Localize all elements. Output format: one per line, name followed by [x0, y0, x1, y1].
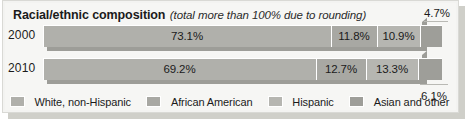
- legend-swatch-icon: [146, 96, 161, 107]
- bar-segment-asian-other-2010[interactable]: [418, 58, 442, 80]
- page-title: Racial/ethnic composition: [13, 8, 165, 22]
- legend-item-african-american[interactable]: African American: [146, 92, 252, 110]
- legend-swatch-icon: [10, 96, 25, 107]
- bar-segment-african-american-2010[interactable]: [316, 58, 366, 80]
- bar-segment-hispanic-2000[interactable]: [377, 25, 420, 47]
- racial-ethnic-composition-chart: Racial/ethnic composition (total more th…: [0, 0, 467, 120]
- chart-title-note: (total more than 100% due to rounding): [170, 9, 366, 21]
- callout-connector-bottom: [420, 84, 448, 85]
- chart-title-row: Racial/ethnic composition (total more th…: [13, 5, 366, 23]
- legend-label: White, non-Hispanic: [34, 96, 131, 108]
- callout-connector-top: [424, 21, 448, 22]
- chart-legend: White, non-Hispanic African American His…: [10, 91, 460, 105]
- legend-swatch-icon: [349, 96, 364, 107]
- stacked-bar-2000: [43, 25, 427, 47]
- bar-bevel-2000: [47, 47, 427, 51]
- stacked-bar-2010: [43, 58, 427, 80]
- legend-item-hispanic[interactable]: Hispanic: [268, 92, 334, 110]
- legend-label: Hispanic: [292, 96, 333, 108]
- legend-item-asian-and-other[interactable]: Asian and other: [349, 92, 449, 110]
- category-label-2000: 2000: [8, 28, 36, 42]
- bar-value-asian-other-2000: 4.7%: [424, 7, 450, 19]
- bar-bevel-2010: [47, 80, 427, 84]
- bar-segment-asian-other-2000[interactable]: [420, 25, 442, 47]
- bar-segment-white-2000[interactable]: [43, 25, 331, 47]
- legend-swatch-icon: [268, 96, 283, 107]
- legend-item-white-non-hispanic[interactable]: White, non-Hispanic: [10, 92, 131, 110]
- category-label-2010: 2010: [8, 61, 36, 75]
- legend-label: African American: [171, 96, 253, 108]
- bar-segment-hispanic-2010[interactable]: [366, 58, 418, 80]
- legend-label: Asian and other: [374, 96, 450, 108]
- bar-segment-white-2010[interactable]: [43, 58, 316, 80]
- bar-segment-african-american-2000[interactable]: [331, 25, 377, 47]
